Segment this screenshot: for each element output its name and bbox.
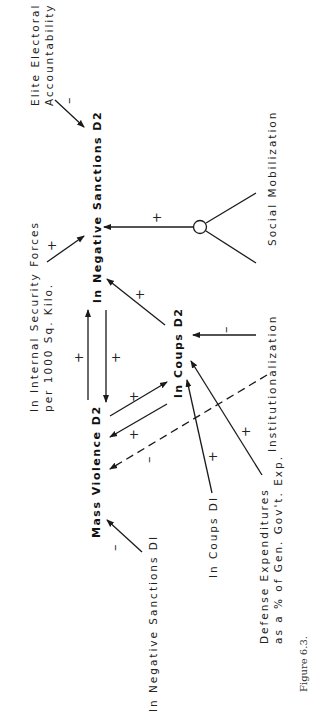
sign-coups-to-negsanc: + [133, 289, 146, 300]
arrow-coupsd1-to-coupsd2 [187, 380, 212, 493]
node-label-line: Defense Expenditures [257, 455, 271, 644]
node-social-mobilization: Social Mobilization [265, 111, 279, 246]
sign-coups-to-mv: + [127, 429, 140, 440]
sign-institution-to-mv: – [142, 457, 155, 464]
node-label-line: Elite Electoral [28, 3, 42, 106]
arrow-coups-to-negsanc [107, 279, 165, 325]
line-institution-to-node [206, 231, 256, 263]
node-coups-d2: ln Coups D2 [172, 308, 186, 398]
sign-interaction: + [150, 212, 163, 223]
node-defense-expenditures: Defense Expenditures as a % of Gen. Gov'… [257, 455, 285, 644]
node-neg-sanctions-d1: ln Negative Sanctions DI [146, 535, 160, 712]
sign-security: + [45, 240, 58, 251]
line-socialmob-to-node [206, 193, 256, 223]
node-elite-accountability: Elite Electoral Accountability [28, 3, 56, 106]
sign-institution-to-coups: – [219, 327, 232, 334]
node-label-line: as a % of Gen. Gov't. Exp. [271, 455, 285, 644]
sign-negsancd1: – [108, 545, 121, 552]
node-institutionalization: Institutionalization [265, 315, 279, 452]
interaction-node [194, 221, 207, 234]
node-label-line: Accountability [42, 3, 56, 106]
arrow-defense-to-coupsd2 [191, 361, 262, 475]
sign-elite: – [62, 98, 75, 105]
sign-negsanc-to-mv: + [109, 352, 122, 363]
sign-mv-to-coups: + [127, 391, 140, 402]
sign-mv-to-negsanc: + [72, 352, 85, 363]
node-mass-violence-d2: Mass Violence D2 [90, 405, 104, 538]
figure-caption: Figure 6.3. [298, 636, 309, 692]
sign-defense: + [239, 426, 252, 437]
sign-coupsd1: + [206, 451, 219, 462]
node-label-line: ln Internal Security Forces [27, 221, 41, 412]
arrow-elite-to-negsanc [55, 100, 84, 127]
node-coups-d1: ln Coups DI [206, 496, 220, 578]
node-neg-sanctions-d2: ln Negative Sanctions D2 [91, 111, 105, 303]
